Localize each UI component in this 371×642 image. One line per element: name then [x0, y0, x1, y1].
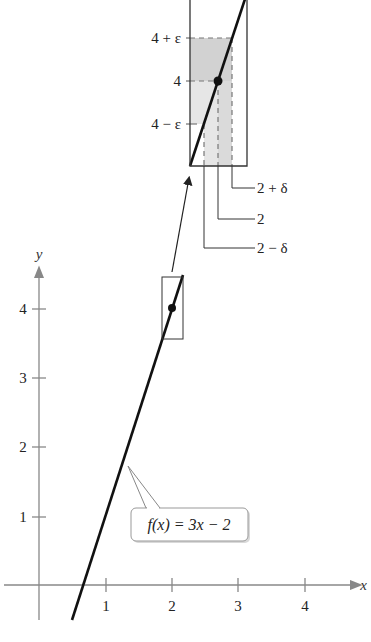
y-tick-label-1: 1 [19, 509, 27, 525]
label-4: 4 [174, 73, 182, 89]
x-axis [4, 578, 360, 592]
label-4-plus-epsilon: 4 + ε [151, 30, 181, 46]
label-2-plus-delta: 2 + δ [257, 180, 288, 196]
delta-right-band [218, 81, 232, 166]
function-line [72, 275, 183, 620]
y-tick-label-2: 2 [19, 439, 27, 455]
zoomed-point [214, 77, 223, 86]
x-tick-label-2: 2 [168, 598, 176, 614]
label-2: 2 [257, 211, 265, 227]
x-axis-label: x [359, 577, 367, 593]
function-label: f(x) = 3x − 2 [148, 516, 231, 534]
x-tick-label-1: 1 [102, 598, 110, 614]
x-tick-label-4: 4 [301, 598, 309, 614]
x-tick-label-3: 3 [234, 598, 242, 614]
zoom-arrow [172, 178, 189, 272]
label-2-minus-delta: 2 − δ [257, 240, 288, 256]
y-axis [32, 268, 46, 620]
y-tick-label-3: 3 [19, 370, 27, 386]
point-2-4 [168, 304, 176, 312]
epsilon-delta-diagram: 1 2 3 4 x 4 3 2 1 y [0, 0, 371, 642]
zoom-inset [186, 0, 255, 248]
y-axis-label: y [34, 246, 43, 262]
y-tick-label-4: 4 [19, 301, 27, 317]
label-4-minus-epsilon: 4 − ε [151, 116, 181, 132]
